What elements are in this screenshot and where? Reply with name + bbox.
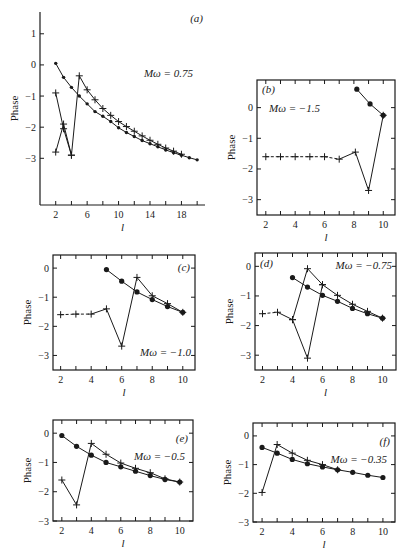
x-tick-label: 10 — [178, 374, 188, 385]
y-tick-label: 0 — [31, 59, 36, 70]
m-omega-annotation: Mω = −0.35 — [329, 453, 387, 465]
data-point-dot — [335, 299, 340, 304]
y-tick-label: −3 — [25, 153, 36, 164]
data-point-dot — [195, 158, 198, 161]
panel-label: (e) — [176, 432, 189, 445]
panel-c: 2468100−1−2−3lPhase(c)Mω = −1.0 — [21, 255, 195, 398]
data-point-dot — [134, 289, 139, 294]
x-axis-label: l — [121, 537, 124, 549]
y-tick-label: −2 — [238, 488, 249, 499]
m-omega-annotation: Mω = −0.5 — [133, 450, 186, 462]
x-tick-label: 2 — [260, 374, 265, 385]
y-tick-label: −3 — [38, 350, 49, 361]
y-tick-label: 0 — [246, 261, 251, 272]
data-point-dot — [365, 473, 370, 478]
x-axis-label: l — [322, 538, 325, 550]
y-axis-label: Phase — [223, 299, 235, 325]
data-point-dot — [188, 156, 191, 159]
y-tick-label: −1 — [38, 292, 49, 303]
y-tick-label: −1 — [240, 290, 251, 301]
y-tick-label: −3 — [242, 194, 253, 205]
data-point-dot — [74, 444, 79, 449]
y-axis-label: Phase — [21, 458, 33, 484]
x-tick-label: 10 — [175, 525, 185, 536]
data-point-dot — [367, 101, 372, 106]
y-tick-label: 0 — [244, 430, 249, 441]
y-tick-label: −2 — [25, 122, 36, 133]
plot-frame — [253, 423, 395, 522]
panel-label: (d) — [260, 257, 273, 270]
panel-f: 2468100−1−2−3lPhase(f)Mω = −0.35 — [221, 423, 395, 550]
series-dots — [354, 87, 386, 118]
panel-label: (b) — [262, 83, 275, 96]
data-point-dot — [290, 457, 295, 462]
series-dots — [104, 267, 186, 315]
data-point-dot — [85, 102, 88, 105]
data-point-dot — [101, 115, 104, 118]
x-tick-label: 10 — [378, 526, 388, 537]
x-tick-label: 8 — [351, 219, 356, 230]
panel-label: (c) — [178, 261, 191, 274]
m-omega-annotation: Mω = −0.75 — [334, 259, 392, 271]
x-tick-label: 4 — [293, 219, 298, 230]
data-point-dot — [350, 470, 355, 475]
data-point-dot — [62, 76, 65, 79]
data-point-dot — [380, 475, 385, 480]
x-axis-label: l — [121, 221, 124, 233]
y-tick-label: 0 — [248, 102, 253, 113]
y-tick-label: −2 — [38, 321, 49, 332]
y-axis-label: Phase — [8, 96, 20, 122]
y-tick-label: −2 — [38, 486, 49, 497]
y-tick-label: −1 — [38, 457, 49, 468]
x-tick-label: 6 — [85, 209, 90, 220]
series-crosses — [262, 112, 386, 194]
data-point-dot — [59, 433, 64, 438]
y-axis-label: Phase — [225, 135, 237, 161]
x-tick-label: 8 — [350, 374, 355, 385]
data-point-dot — [104, 267, 109, 272]
y-tick-label: −2 — [242, 163, 253, 174]
y-tick-label: −2 — [240, 320, 251, 331]
panel-a: 2610141810−1−2−3lPhase(a)Mω = 0.75 — [8, 12, 205, 233]
m-omega-annotation: Mω = −1.0 — [139, 346, 192, 358]
x-tick-label: 10 — [378, 374, 388, 385]
x-tick-label: 2 — [263, 219, 268, 230]
x-tick-label: 2 — [59, 525, 64, 536]
data-point-dot — [259, 445, 264, 450]
series-crosses — [57, 274, 186, 350]
data-point-dot — [93, 110, 96, 113]
x-tick-label: 6 — [320, 526, 325, 537]
x-axis-label: l — [324, 231, 327, 243]
x-tick-label: 2 — [53, 209, 58, 220]
x-tick-label: 18 — [176, 209, 186, 220]
data-point-dot — [305, 284, 310, 289]
figure-canvas: 2610141810−1−2−3lPhase(a)Mω = 0.75246810… — [0, 0, 405, 555]
x-tick-label: 8 — [148, 525, 153, 536]
data-point-dot — [117, 126, 120, 129]
data-point-dot — [70, 86, 73, 89]
x-tick-label: 8 — [150, 374, 155, 385]
y-tick-label: 0 — [44, 428, 49, 439]
plot-frame — [257, 80, 395, 215]
y-tick-label: −1 — [238, 459, 249, 470]
x-tick-label: 10 — [114, 209, 124, 220]
x-tick-label: 6 — [118, 525, 123, 536]
x-axis-label: l — [324, 386, 327, 398]
data-point-dot — [109, 120, 112, 123]
y-tick-label: −1 — [242, 133, 253, 144]
y-axis-label: Phase — [221, 460, 233, 486]
panel-e: 2468100−1−2−3lPhase(e)Mω = −0.5 — [21, 420, 193, 549]
x-tick-label: 2 — [260, 526, 265, 537]
panel-b: 2468100−1−2−3lPhase(b)Mω = −1.5 — [225, 80, 395, 243]
panel-label: (a) — [190, 12, 203, 25]
x-tick-label: 6 — [119, 374, 124, 385]
data-point-dot — [89, 453, 94, 458]
x-tick-label: 6 — [322, 219, 327, 230]
x-tick-label: 14 — [145, 209, 155, 220]
panel-label: (f) — [380, 435, 391, 448]
m-omega-annotation: Mω = 0.75 — [143, 67, 194, 79]
y-tick-label: 0 — [44, 263, 49, 274]
x-tick-label: 4 — [290, 374, 295, 385]
y-tick-label: −3 — [238, 517, 249, 528]
data-point-dot — [54, 62, 57, 65]
